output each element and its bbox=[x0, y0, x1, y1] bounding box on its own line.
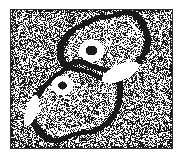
micrograph-plate bbox=[10, 9, 173, 149]
figure-root: two dividing coccoid cells forming a fig… bbox=[0, 0, 183, 161]
micrograph-image bbox=[11, 10, 172, 148]
